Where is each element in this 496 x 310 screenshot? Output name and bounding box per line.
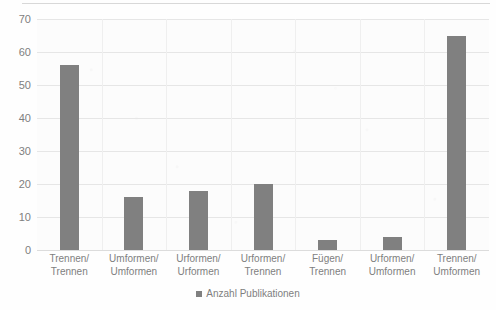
x-axis-label-line: Umformen bbox=[424, 265, 489, 278]
x-axis-label-line: Trennen bbox=[37, 265, 102, 278]
gridline bbox=[37, 250, 489, 251]
y-axis: 010203040506070 bbox=[0, 19, 31, 250]
category-divider bbox=[102, 19, 103, 250]
bar[interactable] bbox=[189, 191, 208, 250]
x-axis-tick-label: Urformen/Urformen bbox=[166, 252, 231, 278]
y-axis-tick-label: 20 bbox=[1, 179, 31, 190]
x-axis-label-line: Urformen/ bbox=[166, 252, 231, 265]
category-divider bbox=[166, 19, 167, 250]
bar[interactable] bbox=[383, 237, 402, 250]
y-axis-tick-label: 60 bbox=[1, 47, 31, 58]
plot-area bbox=[37, 19, 489, 250]
bar[interactable] bbox=[60, 65, 79, 250]
y-axis-tick-label: 30 bbox=[1, 146, 31, 157]
x-axis-label-line: Urformen/ bbox=[360, 252, 425, 265]
bar[interactable] bbox=[124, 197, 143, 250]
x-axis-tick-label: Urformen/Umformen bbox=[360, 252, 425, 278]
page-rule-divider bbox=[22, 3, 490, 4]
category-divider bbox=[360, 19, 361, 250]
category-divider bbox=[231, 19, 232, 250]
gridline bbox=[37, 118, 489, 119]
bar[interactable] bbox=[254, 184, 273, 250]
bar[interactable] bbox=[447, 36, 466, 251]
gridline bbox=[37, 151, 489, 152]
x-axis-label-line: Urformen bbox=[166, 265, 231, 278]
legend-swatch-icon bbox=[196, 291, 202, 297]
bar-chart: 010203040506070 Trennen/TrennenUmformen/… bbox=[0, 0, 496, 310]
x-axis-tick-label: Urformen/Trennen bbox=[231, 252, 296, 278]
bar[interactable] bbox=[318, 240, 337, 250]
x-axis-label-line: Trennen bbox=[231, 265, 296, 278]
y-axis-tick-label: 10 bbox=[1, 212, 31, 223]
y-axis-tick-label: 70 bbox=[1, 14, 31, 25]
x-axis-tick-label: Fügen/ Trennen bbox=[295, 252, 360, 278]
x-axis: Trennen/TrennenUmformen/UmformenUrformen… bbox=[37, 252, 489, 286]
y-axis-tick-label: 40 bbox=[1, 113, 31, 124]
gridline bbox=[37, 52, 489, 53]
gridline bbox=[37, 85, 489, 86]
y-axis-tick-label: 0 bbox=[1, 245, 31, 256]
chart-legend: Anzahl Publikationen bbox=[0, 288, 496, 300]
legend-label: Anzahl Publikationen bbox=[206, 288, 299, 300]
x-axis-tick-label: Trennen/Trennen bbox=[37, 252, 102, 278]
x-axis-label-line: Fügen/ Trennen bbox=[295, 252, 360, 278]
x-axis-label-line: Trennen/ bbox=[37, 252, 102, 265]
category-divider bbox=[295, 19, 296, 250]
x-axis-label-line: Umformen/ bbox=[102, 252, 167, 265]
x-axis-label-line: Urformen/ bbox=[231, 252, 296, 265]
x-axis-label-line: Umformen bbox=[360, 265, 425, 278]
x-axis-tick-label: Trennen/Umformen bbox=[424, 252, 489, 278]
x-axis-tick-label: Umformen/Umformen bbox=[102, 252, 167, 278]
category-divider bbox=[424, 19, 425, 250]
gridline bbox=[37, 19, 489, 20]
y-axis-tick-label: 50 bbox=[1, 80, 31, 91]
x-axis-label-line: Trennen/ bbox=[424, 252, 489, 265]
x-axis-label-line: Umformen bbox=[102, 265, 167, 278]
